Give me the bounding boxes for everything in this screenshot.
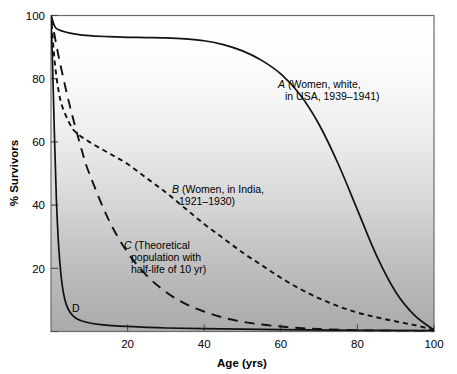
- svg-text:C (Theoretical: C (Theoretical: [124, 239, 190, 251]
- svg-text:A (Women, white,: A (Women, white,: [277, 78, 361, 90]
- label-b-line1-rest: (Women, in India,: [179, 183, 264, 195]
- x-tick-100: 100: [424, 338, 443, 350]
- x-tick-60: 60: [274, 338, 287, 350]
- y-tick-100: 100: [26, 10, 45, 22]
- y-tick-20: 20: [32, 263, 45, 275]
- label-d-series: D: [72, 302, 80, 314]
- label-c-line3: half-life of 10 yr): [131, 263, 206, 275]
- y-tick-60: 60: [32, 136, 45, 148]
- label-a-line1-rest: (Women, white,: [285, 78, 361, 90]
- y-tick-40: 40: [32, 199, 45, 211]
- x-tick-20: 20: [121, 338, 134, 350]
- label-a-line2: in USA, 1939–1941): [285, 90, 380, 102]
- survivorship-curve-figure: 20 40 60 80 100 20 40 60 80 100 Age (yrs…: [0, 0, 457, 374]
- label-a-series: A: [277, 78, 285, 90]
- x-tick-labels: 20 40 60 80 100: [121, 338, 443, 350]
- label-c-line2: population with: [131, 251, 201, 263]
- y-axis-title: % Survivors: [8, 140, 20, 206]
- x-axis-title: Age (yrs): [217, 357, 267, 369]
- label-b-series: B: [172, 183, 179, 195]
- y-tick-80: 80: [32, 73, 45, 85]
- label-b-line2: 1921–1930): [179, 195, 235, 207]
- x-tick-80: 80: [351, 338, 364, 350]
- chart-svg: 20 40 60 80 100 20 40 60 80 100 Age (yrs…: [0, 0, 457, 374]
- y-tick-labels: 20 40 60 80 100: [26, 10, 45, 275]
- svg-text:B (Women, in India,: B (Women, in India,: [172, 183, 264, 195]
- label-c-line1-rest: (Theoretical: [132, 239, 190, 251]
- x-tick-40: 40: [198, 338, 211, 350]
- plot-background: [51, 16, 434, 332]
